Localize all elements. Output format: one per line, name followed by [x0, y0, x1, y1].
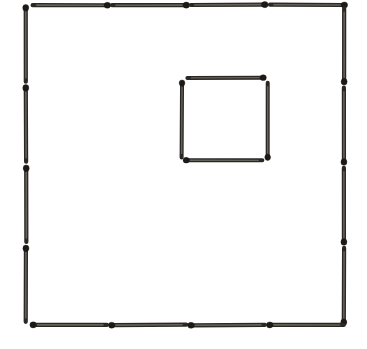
- matchstick-head: [179, 80, 185, 86]
- matchstick-figure: A large square outlined by sixteen match…: [0, 0, 367, 349]
- figure-background: [0, 0, 367, 349]
- matchstick-diagram-canvas: [0, 0, 367, 349]
- matchstick-head: [23, 245, 29, 252]
- matchstick-head: [265, 154, 271, 160]
- matchstick-head: [183, 157, 189, 163]
- matchstick-head: [23, 165, 29, 172]
- matchstick-head: [108, 322, 115, 328]
- matchstick-head: [183, 2, 190, 8]
- matchstick-head: [266, 322, 273, 328]
- matchstick-head: [23, 5, 29, 12]
- matchstick-head: [30, 322, 37, 328]
- matchstick-head: [260, 75, 266, 81]
- matchstick-head: [23, 85, 29, 92]
- matchstick-head: [262, 2, 269, 8]
- matchstick-head: [341, 239, 347, 246]
- matchstick-head: [341, 159, 347, 166]
- matchstick-head: [341, 79, 347, 86]
- matchstick-head: [188, 322, 195, 328]
- matchstick-head: [104, 2, 111, 8]
